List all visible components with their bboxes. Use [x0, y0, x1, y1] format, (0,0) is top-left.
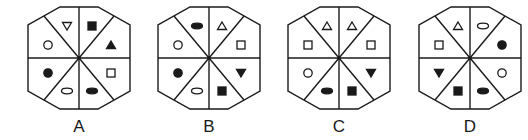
- option-d-octagon[interactable]: [419, 7, 521, 109]
- outline-square-icon: [367, 41, 375, 49]
- filled-circle-icon: [174, 69, 182, 77]
- filled-square-icon: [454, 87, 462, 95]
- option-c-octagon[interactable]: [288, 7, 390, 109]
- center-dot: [207, 56, 211, 60]
- outline-square-icon: [435, 41, 443, 49]
- center-dot: [337, 56, 341, 60]
- option-a-octagon[interactable]: [28, 7, 130, 109]
- option-c-label[interactable]: C: [324, 117, 354, 137]
- option-a-label[interactable]: A: [64, 117, 94, 137]
- outline-ellipse-icon: [192, 88, 203, 94]
- filled-ellipse-icon: [192, 23, 203, 29]
- center-dot: [468, 56, 472, 60]
- outline-ellipse-icon: [478, 23, 489, 29]
- filled-circle-icon: [44, 69, 52, 77]
- outline-circle-icon: [174, 41, 182, 49]
- outline-square-icon: [237, 41, 245, 49]
- filled-square-icon: [218, 87, 226, 95]
- option-b-label[interactable]: B: [194, 117, 224, 137]
- option-b-octagon[interactable]: [158, 7, 260, 109]
- filled-square-icon: [88, 22, 96, 30]
- outline-square-icon: [107, 69, 115, 77]
- outline-ellipse-icon: [62, 88, 73, 94]
- outline-square-icon: [304, 41, 312, 49]
- filled-square-icon: [348, 87, 356, 95]
- filled-ellipse-icon: [87, 88, 98, 94]
- outline-circle-icon: [498, 69, 506, 77]
- center-dot: [77, 56, 81, 60]
- filled-circle-icon: [498, 41, 506, 49]
- outline-circle-icon: [44, 41, 52, 49]
- outline-circle-icon: [304, 69, 312, 77]
- filled-ellipse-icon: [478, 88, 489, 94]
- filled-ellipse-icon: [322, 88, 333, 94]
- option-d-label[interactable]: D: [455, 117, 485, 137]
